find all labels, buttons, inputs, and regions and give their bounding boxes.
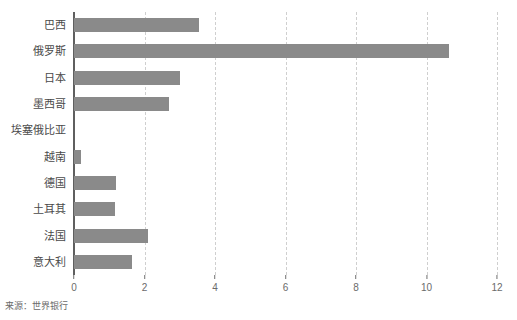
x-tick-label: 10 bbox=[421, 282, 432, 293]
x-tick-label: 0 bbox=[71, 282, 77, 293]
category-label: 俄罗斯 bbox=[0, 44, 66, 58]
category-label: 巴西 bbox=[0, 18, 66, 32]
x-tick: 8 bbox=[353, 275, 359, 293]
x-tick: 0 bbox=[71, 275, 77, 293]
bar-row: 法国 bbox=[74, 222, 497, 248]
category-label: 法国 bbox=[0, 229, 66, 243]
bar[interactable] bbox=[74, 71, 180, 85]
bar-row: 德国 bbox=[74, 170, 497, 196]
x-tick: 10 bbox=[421, 275, 432, 293]
x-tick: 6 bbox=[283, 275, 289, 293]
bar-row: 墨西哥 bbox=[74, 91, 497, 117]
x-tick-mark bbox=[426, 275, 427, 279]
category-label: 日本 bbox=[0, 71, 66, 85]
bar[interactable] bbox=[74, 229, 148, 243]
x-tick-mark bbox=[74, 275, 75, 279]
x-axis: 024681012 bbox=[74, 275, 497, 299]
bar-row: 俄罗斯 bbox=[74, 38, 497, 64]
category-label: 越南 bbox=[0, 150, 66, 164]
x-tick-mark bbox=[144, 275, 145, 279]
x-tick-mark bbox=[285, 275, 286, 279]
bar-row: 越南 bbox=[74, 144, 497, 170]
x-tick-label: 8 bbox=[353, 282, 359, 293]
gridline bbox=[497, 12, 499, 275]
bar[interactable] bbox=[74, 44, 449, 58]
x-tick-label: 6 bbox=[283, 282, 289, 293]
x-tick: 12 bbox=[491, 275, 502, 293]
x-tick-label: 12 bbox=[491, 282, 502, 293]
bar-row: 埃塞俄比亚 bbox=[74, 117, 497, 143]
x-tick-label: 2 bbox=[142, 282, 148, 293]
x-tick: 4 bbox=[212, 275, 218, 293]
x-tick-mark bbox=[356, 275, 357, 279]
bar[interactable] bbox=[74, 255, 132, 269]
bar-row: 土耳其 bbox=[74, 196, 497, 222]
bar[interactable] bbox=[74, 202, 115, 216]
bar-row: 日本 bbox=[74, 65, 497, 91]
bar[interactable] bbox=[74, 18, 199, 32]
category-label: 墨西哥 bbox=[0, 97, 66, 111]
category-label: 意大利 bbox=[0, 255, 66, 269]
bar[interactable] bbox=[74, 176, 116, 190]
source-note: 来源：世界银行 bbox=[5, 299, 68, 312]
x-tick-mark bbox=[497, 275, 498, 279]
category-label: 埃塞俄比亚 bbox=[0, 123, 66, 137]
x-tick-label: 4 bbox=[212, 282, 218, 293]
bar-chart: 巴西俄罗斯日本墨西哥埃塞俄比亚越南德国土耳其法国意大利 024681012 来源… bbox=[0, 0, 517, 320]
category-label: 土耳其 bbox=[0, 202, 66, 216]
x-tick-mark bbox=[215, 275, 216, 279]
bar[interactable] bbox=[74, 97, 169, 111]
bar-row: 巴西 bbox=[74, 12, 497, 38]
category-label: 德国 bbox=[0, 176, 66, 190]
bar[interactable] bbox=[74, 150, 81, 164]
bar-row: 意大利 bbox=[74, 249, 497, 275]
x-tick: 2 bbox=[142, 275, 148, 293]
plot-area: 巴西俄罗斯日本墨西哥埃塞俄比亚越南德国土耳其法国意大利 bbox=[74, 12, 497, 275]
